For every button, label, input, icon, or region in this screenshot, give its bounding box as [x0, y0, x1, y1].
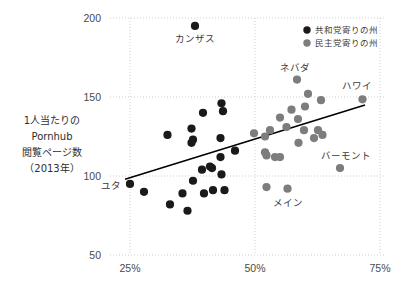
- point-annotation-label: バーモント: [321, 150, 371, 161]
- data-point: [209, 186, 217, 194]
- data-point: [178, 189, 186, 197]
- point-annotation-label: カンザス: [175, 33, 215, 44]
- chart-legend: 共和党寄りの州民主党寄りの州: [303, 25, 378, 48]
- x-axis-tick-labels: 25%50%75%: [119, 262, 390, 274]
- data-point: [217, 99, 225, 107]
- scatter-chart: 20015010050 25%50%75% 1人当たりのPornhub閲覧ページ…: [0, 0, 406, 289]
- x-tick-label: 50%: [244, 262, 265, 274]
- data-points-democrat: [250, 76, 367, 193]
- data-point: [163, 131, 171, 139]
- data-point: [261, 132, 269, 140]
- trendline: [125, 105, 365, 179]
- y-axis-title-line: 閲覧ページ数: [22, 146, 82, 158]
- y-tick-label: 200: [83, 12, 101, 24]
- chart-canvas: 20015010050 25%50%75% 1人当たりのPornhub閲覧ページ…: [0, 0, 406, 289]
- y-axis-tick-labels: 20015010050: [83, 12, 101, 261]
- data-point: [189, 177, 197, 185]
- data-point: [336, 164, 344, 172]
- data-point: [283, 185, 291, 193]
- data-point: [166, 200, 174, 208]
- data-point: [262, 151, 270, 159]
- data-point: [276, 113, 284, 121]
- data-point: [301, 102, 309, 110]
- data-point: [282, 123, 290, 131]
- data-point: [200, 189, 208, 197]
- data-point: [318, 131, 326, 139]
- data-point: [198, 166, 206, 174]
- data-point: [300, 126, 308, 134]
- data-point: [310, 134, 318, 142]
- data-point: [231, 147, 239, 155]
- y-tick-label: 100: [83, 170, 101, 182]
- data-point: [183, 207, 191, 215]
- point-annotation-label: ハワイ: [342, 80, 372, 91]
- legend-label: 共和党寄りの州: [315, 25, 378, 35]
- trend-line: [125, 105, 365, 179]
- data-point: [219, 107, 227, 115]
- y-axis-title-line: Pornhub: [31, 131, 72, 142]
- gridlines: [110, 18, 385, 255]
- data-point: [191, 22, 199, 30]
- y-tick-label: 150: [83, 91, 101, 103]
- legend-marker: [303, 26, 310, 33]
- data-point: [216, 134, 224, 142]
- data-point: [217, 170, 225, 178]
- data-point: [216, 153, 224, 161]
- y-axis-title: 1人当たりのPornhub閲覧ページ数（2013年）: [22, 114, 82, 174]
- data-point: [189, 136, 197, 144]
- data-point: [208, 164, 216, 172]
- data-points-republican: [126, 22, 239, 215]
- data-point: [358, 95, 366, 103]
- point-annotations: カンザスネバダハワイバーモントメインユタ: [101, 33, 372, 208]
- data-point: [126, 180, 134, 188]
- data-point: [140, 188, 148, 196]
- data-point: [294, 115, 302, 123]
- x-tick-label: 75%: [369, 262, 390, 274]
- data-point: [262, 183, 270, 191]
- point-annotation-label: ネバダ: [280, 62, 310, 73]
- data-point: [304, 90, 312, 98]
- data-point: [220, 186, 228, 194]
- legend-marker: [303, 39, 310, 46]
- data-point: [199, 109, 207, 117]
- data-point: [250, 129, 258, 137]
- y-axis-title-line: （2013年）: [24, 162, 79, 174]
- legend-label: 民主党寄りの州: [315, 38, 378, 48]
- y-tick-label: 50: [89, 249, 101, 261]
- data-point: [287, 106, 295, 114]
- data-point: [293, 76, 301, 84]
- data-point: [317, 96, 325, 104]
- y-axis-title-line: 1人当たりの: [24, 114, 80, 126]
- data-point: [276, 153, 284, 161]
- x-tick-label: 25%: [119, 262, 140, 274]
- data-point: [187, 125, 195, 133]
- point-annotation-label: メイン: [273, 197, 303, 208]
- data-point: [294, 139, 302, 147]
- point-annotation-label: ユタ: [101, 180, 121, 191]
